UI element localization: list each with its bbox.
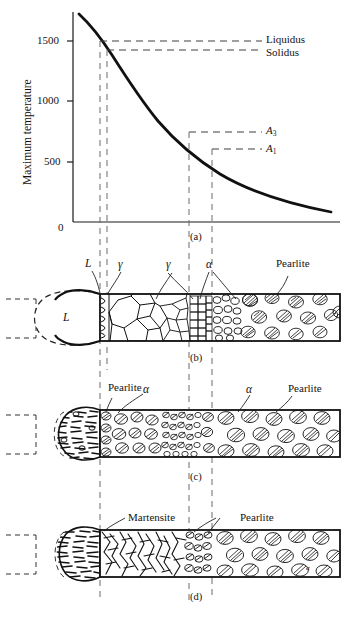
liquidus-label: Liquidus xyxy=(266,34,305,45)
y-tick-label-500: 500 xyxy=(44,156,61,167)
panel-d-label-martensite: Martensite xyxy=(128,512,175,523)
leader-pearlite xyxy=(276,276,288,295)
leader-martensite-d xyxy=(104,518,125,531)
panel-b-label-gamma-2: γ xyxy=(166,259,171,271)
panel-c-label-alpha-left: α xyxy=(143,384,149,396)
a1-subscript: 1 xyxy=(273,147,277,156)
panel-b-label-liquid-top: L xyxy=(85,258,91,270)
caption-d: (d) xyxy=(190,592,202,603)
panel-d-label-pearlite: Pearlite xyxy=(240,512,274,523)
panel-c-label-alpha-right: α xyxy=(246,384,252,396)
y-tick-label-1000: 1000 xyxy=(37,95,59,106)
panel-b-label-gamma-1: γ xyxy=(118,259,123,271)
a3-label: A3 xyxy=(266,125,276,138)
y-tick-label-1500: 1500 xyxy=(37,35,59,46)
panel-d-label-alpha: α xyxy=(306,565,310,572)
welding-thermal-cycle-figure: Maximum temperature 1500 1000 500 0 Liqu… xyxy=(0,0,349,619)
a1-letter: A xyxy=(266,142,273,154)
a3-subscript: 3 xyxy=(273,129,277,138)
leader-gamma-1 xyxy=(107,272,121,295)
panel-b-label-liquid-center: L xyxy=(63,312,69,324)
caption-a: (a) xyxy=(190,232,202,243)
panel-b-microstructure xyxy=(0,262,349,382)
panel-c-microstructure xyxy=(0,382,349,502)
specimen-bar-d xyxy=(100,530,340,577)
caption-b: (b) xyxy=(190,353,202,364)
y-tick-label-0: 0 xyxy=(58,222,64,233)
a3-letter: A xyxy=(266,124,273,136)
a1-label: A1 xyxy=(266,143,276,156)
caption-c: (c) xyxy=(190,472,202,483)
y-axis-title: Maximum temperature xyxy=(22,79,34,185)
panel-b-label-pearlite: Pearlite xyxy=(276,258,310,269)
panel-b-label-alpha: α xyxy=(206,259,212,271)
panel-c-label-pearlite-right: Pearlite xyxy=(288,383,322,394)
panel-c-label-pearlite-left: Pearlite xyxy=(108,382,142,393)
solidus-label: Solidus xyxy=(266,47,299,58)
